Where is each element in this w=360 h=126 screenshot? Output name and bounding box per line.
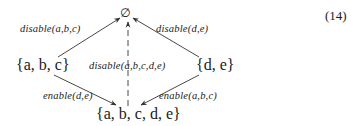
equation-number: (14) — [325, 9, 347, 22]
node-empty-set: ∅ — [120, 7, 130, 19]
edge-label-disable-de: disable(d,e) — [156, 23, 208, 34]
edge-label-disable-abc: disable(a,b,c) — [20, 23, 81, 34]
state-transition-diagram: ∅ {a, b, c} {d, e} {a, b, c, d, e} disab… — [0, 0, 360, 126]
node-de: {d, e} — [196, 57, 234, 73]
node-abc: {a, b, c} — [16, 57, 70, 73]
edge-label-disable-abcde: disable(a,b,c,d,e) — [89, 60, 166, 71]
edge-label-enable-abc: enable(a,b,c) — [159, 90, 217, 101]
edge-label-enable-de: enable(d,e) — [43, 90, 93, 101]
node-abcde: {a, b, c, d, e} — [96, 106, 181, 122]
